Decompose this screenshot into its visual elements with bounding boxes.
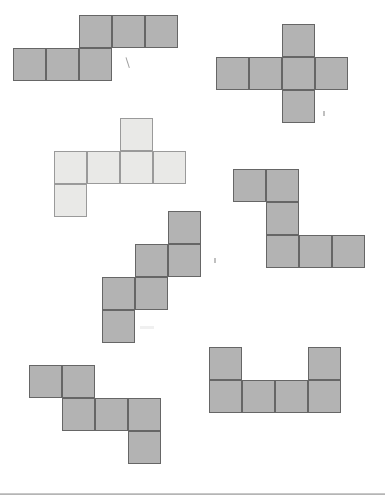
u-shaped-net-bottom-right bbox=[0, 0, 385, 499]
net-square bbox=[332, 235, 365, 268]
faint-dot-mark bbox=[214, 258, 216, 263]
net-square bbox=[266, 202, 299, 235]
scan-smudge bbox=[140, 326, 154, 329]
net-square bbox=[209, 347, 242, 380]
net-square bbox=[79, 15, 112, 48]
t-shaped-net-middle-left-light bbox=[0, 0, 385, 499]
net-square bbox=[266, 169, 299, 202]
net-square bbox=[266, 235, 299, 268]
faint-dot-mark bbox=[323, 111, 325, 116]
net-square bbox=[95, 398, 128, 431]
z-shaped-net-middle-right bbox=[0, 0, 385, 499]
net-square bbox=[308, 347, 341, 380]
net-square bbox=[168, 244, 201, 277]
net-square bbox=[315, 57, 348, 90]
net-square bbox=[54, 184, 87, 217]
net-square bbox=[54, 151, 87, 184]
net-square bbox=[128, 431, 161, 464]
net-square bbox=[62, 398, 95, 431]
net-square bbox=[135, 244, 168, 277]
net-square bbox=[120, 151, 153, 184]
net-square bbox=[13, 48, 46, 81]
net-square bbox=[242, 380, 275, 413]
net-square bbox=[282, 57, 315, 90]
net-square bbox=[128, 398, 161, 431]
net-square bbox=[216, 57, 249, 90]
pencil-tick-mark bbox=[125, 55, 136, 68]
net-square bbox=[135, 277, 168, 310]
net-square bbox=[79, 48, 112, 81]
net-square bbox=[102, 277, 135, 310]
net-square bbox=[29, 365, 62, 398]
net-square bbox=[233, 169, 266, 202]
net-square bbox=[299, 235, 332, 268]
staircase-net-center bbox=[0, 0, 385, 499]
zigzag-net-bottom-left bbox=[0, 0, 385, 499]
net-square bbox=[282, 90, 315, 123]
net-square bbox=[62, 365, 95, 398]
net-square bbox=[145, 15, 178, 48]
net-square bbox=[112, 15, 145, 48]
z-shaped-net-top-left bbox=[0, 0, 385, 499]
net-square bbox=[308, 380, 341, 413]
net-square bbox=[282, 24, 315, 57]
net-square bbox=[87, 151, 120, 184]
net-square bbox=[209, 380, 242, 413]
net-square bbox=[46, 48, 79, 81]
worksheet-canvas bbox=[0, 0, 385, 499]
net-square bbox=[102, 310, 135, 343]
net-square bbox=[249, 57, 282, 90]
net-square bbox=[168, 211, 201, 244]
net-square bbox=[275, 380, 308, 413]
cross-shaped-net-top-right bbox=[0, 0, 385, 499]
net-square bbox=[153, 151, 186, 184]
net-square bbox=[120, 118, 153, 151]
page-bottom-rule-shadow bbox=[0, 494, 385, 495]
